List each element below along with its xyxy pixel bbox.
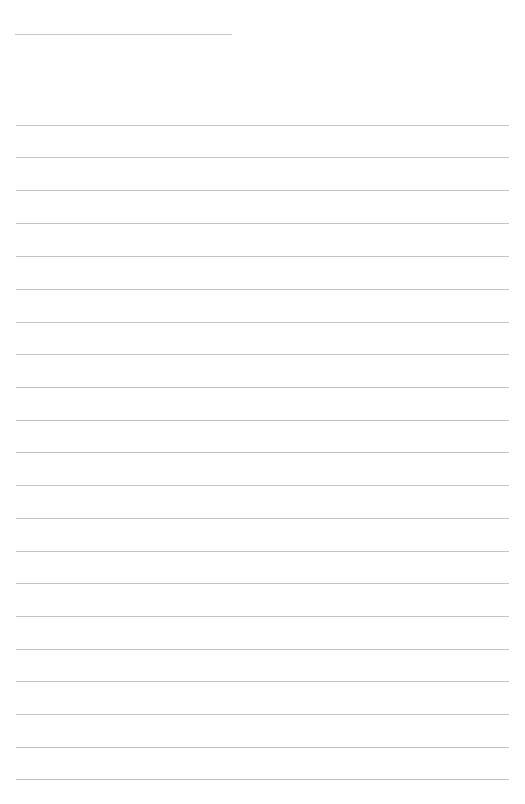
ruled-line [16, 125, 509, 126]
ruled-line [16, 649, 509, 650]
ruled-line [16, 354, 509, 355]
ruled-line [16, 190, 509, 191]
ruled-line [16, 256, 509, 257]
lined-paper-page [0, 0, 525, 804]
ruled-line [16, 616, 509, 617]
ruled-line [16, 747, 509, 748]
ruled-line [16, 518, 509, 519]
ruled-line [16, 452, 509, 453]
ruled-line [16, 551, 509, 552]
ruled-line [16, 681, 509, 682]
ruled-line [16, 289, 509, 290]
ruled-line [16, 322, 509, 323]
ruled-line [16, 420, 509, 421]
ruled-line [16, 583, 509, 584]
ruled-line [16, 779, 509, 780]
title-line [15, 34, 232, 35]
ruled-line [16, 714, 509, 715]
ruled-line [16, 387, 509, 388]
ruled-line [16, 485, 509, 486]
ruled-line [16, 223, 509, 224]
ruled-line [16, 157, 509, 158]
